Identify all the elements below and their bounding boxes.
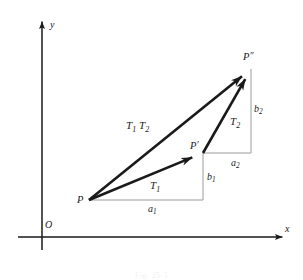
vector-T1 [89,157,192,200]
point-pdprime-prime: ″ [249,50,253,61]
component-label-b2: b2 [254,104,263,117]
point-pprime-prime: ′ [196,139,198,150]
component-b1-subscript: 1 [212,176,216,184]
translation-vector-figure: y x O P P′ P″ T1 T2 T1T2 a1 b1 a2 b2 Fig… [0,0,303,280]
vector-T1T2-resultant [89,76,242,200]
point-p-base: P [77,194,83,205]
figure-canvas [0,0,303,280]
component-label-a2: a2 [231,158,240,171]
vector-label-T2: T2 [230,116,240,129]
point-label-p-prime: P′ [190,140,199,152]
vector-label-T1: T1 [150,180,160,193]
y-axis-label: y [50,20,54,30]
x-axis-label: x [285,224,289,234]
vector-label-T1T2: T1T2 [126,120,149,133]
component-label-b1: b1 [207,172,216,185]
vector-T1-subscript: 1 [156,185,160,194]
figure-caption: Fig. 25-3 [0,271,303,280]
origin-label: O [45,220,52,230]
vectors-group [89,76,245,200]
component-a2-subscript: 2 [236,162,240,170]
component-a1-subscript: 1 [153,208,157,216]
point-label-p: P [77,194,83,206]
component-label-a1: a1 [148,204,157,217]
vector-T2-subscript: 2 [236,121,240,130]
point-label-p-double-prime: P″ [243,51,253,63]
component-b2-subscript: 2 [259,108,263,116]
vector-T1T2-subscript1: 1 [132,125,136,134]
vector-T1T2-subscript2: 2 [145,125,149,134]
